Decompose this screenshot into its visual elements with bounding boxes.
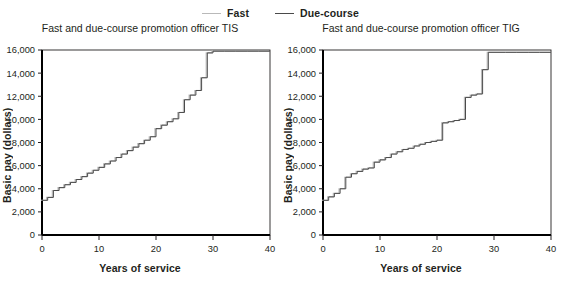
svg-text:10: 10 bbox=[375, 244, 385, 254]
svg-text:20: 20 bbox=[432, 244, 442, 254]
svg-text:0: 0 bbox=[311, 230, 316, 240]
svg-text:30: 30 bbox=[208, 244, 218, 254]
y-axis-title-tig: Basic pay (dollars) bbox=[283, 80, 299, 230]
x-axis-title-tis: Years of service bbox=[0, 263, 280, 274]
svg-text:30: 30 bbox=[489, 244, 499, 254]
plot-area-tis: 02,0004,0006,0008,00010,00012,00014,0001… bbox=[0, 20, 280, 284]
legend-label-due-course: Due-course bbox=[300, 8, 359, 19]
svg-text:16,000: 16,000 bbox=[7, 45, 35, 55]
svg-text:40: 40 bbox=[265, 244, 275, 254]
x-axis-title-tig: Years of service bbox=[281, 263, 561, 274]
svg-text:40: 40 bbox=[546, 244, 556, 254]
line-swatch-icon bbox=[275, 13, 294, 14]
legend-item-due-course: Due-course bbox=[275, 8, 359, 19]
svg-text:14,000: 14,000 bbox=[288, 69, 316, 79]
svg-text:16,000: 16,000 bbox=[288, 45, 316, 55]
chart-panel-tig: Fast and due-course promotion officer TI… bbox=[281, 20, 561, 284]
y-axis-title-tis: Basic pay (dollars) bbox=[2, 80, 18, 230]
chart-panel-tis: Fast and due-course promotion officer TI… bbox=[0, 20, 280, 284]
svg-text:14,000: 14,000 bbox=[7, 69, 35, 79]
svg-text:10: 10 bbox=[94, 244, 104, 254]
legend-item-fast: Fast bbox=[202, 8, 249, 19]
svg-text:20: 20 bbox=[151, 244, 161, 254]
chart-svg-tig: 02,0004,0006,0008,00010,00012,00014,0001… bbox=[281, 20, 561, 284]
svg-text:0: 0 bbox=[39, 244, 44, 254]
svg-text:0: 0 bbox=[320, 244, 325, 254]
legend-label-fast: Fast bbox=[227, 8, 249, 19]
svg-text:0: 0 bbox=[30, 230, 35, 240]
line-swatch-icon bbox=[202, 13, 221, 14]
chart-svg-tis: 02,0004,0006,0008,00010,00012,00014,0001… bbox=[0, 20, 280, 284]
plot-area-tig: 02,0004,0006,0008,00010,00012,00014,0001… bbox=[281, 20, 561, 284]
